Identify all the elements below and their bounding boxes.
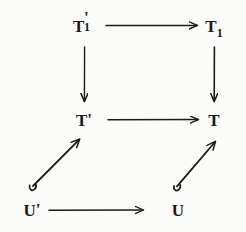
node-t-prime-mark: '	[87, 111, 92, 128]
node-t-prime-base: T	[76, 112, 87, 129]
arrow-u-to-t	[174, 142, 215, 191]
node-t1-prime-base: T	[73, 18, 84, 35]
node-t1-base: T	[205, 18, 216, 35]
node-u-base: U	[172, 202, 184, 219]
node-t1: T1	[205, 18, 222, 35]
node-t-prime: T'	[76, 112, 92, 129]
commutative-diagram: T'1 T1 T' T U' U	[0, 0, 246, 232]
node-t1-prime-subscript: 1	[84, 21, 90, 33]
node-u-prime-mark: '	[36, 201, 41, 218]
node-t1-prime: T'1	[73, 18, 95, 35]
node-u-prime: U'	[23, 202, 40, 219]
node-t-base: T	[208, 112, 219, 129]
node-u: U	[172, 202, 184, 219]
node-u-prime-base: U	[23, 202, 35, 219]
node-t: T	[208, 112, 219, 129]
arrow-uprime-to-tprime	[30, 140, 80, 191]
node-t1-subscript: 1	[217, 27, 223, 39]
